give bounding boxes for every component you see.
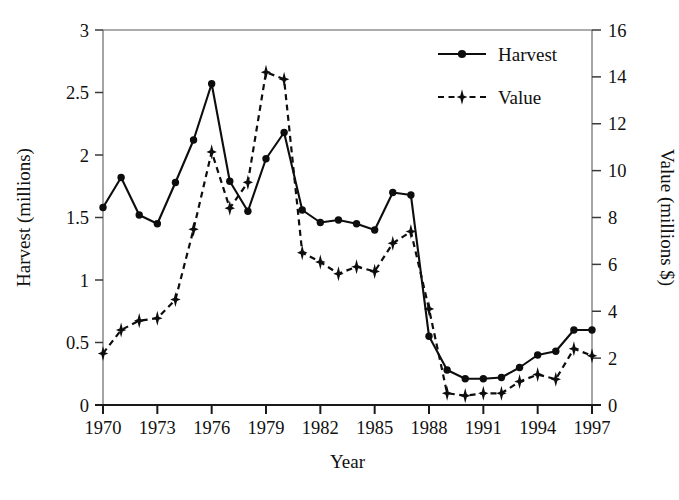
y-axis-tick-label: 3 [80,21,89,41]
data-point [154,220,161,227]
y-axis-tick-label: 1 [80,271,89,291]
data-point [460,388,470,403]
data-point [226,178,233,185]
series-line [103,72,592,395]
chart-figure: 00.511.522.53024681012141619701973197619… [0,0,679,500]
data-point [588,326,595,333]
data-point [299,206,306,213]
x-axis-tick-label: 1979 [248,418,285,438]
data-point [206,144,216,159]
data-point [351,259,361,274]
y-axis-tick-label: 2 [80,146,89,166]
y2-axis-tick-label: 8 [608,208,617,228]
data-series [98,65,597,404]
data-point [425,333,432,340]
data-point [261,65,271,80]
x-axis-tick-label: 1973 [139,418,176,438]
data-point [552,348,559,355]
x-axis-tick-label: 1982 [302,418,339,438]
data-point [442,386,452,401]
x-axis-tick-label: 1976 [193,418,230,438]
legend-item-value[interactable]: Value [438,87,541,108]
y2-axis-tick-label: 6 [608,255,617,275]
legend-label: Harvest [498,44,558,65]
legend-item-harvest[interactable]: Harvest [438,44,558,65]
y2-axis-tick-label: 14 [608,67,627,87]
y2-axis-title: Value (millions $) [656,149,678,286]
legend-marker-circle-icon [458,50,466,58]
data-point [353,220,360,227]
data-point [498,374,505,381]
series-line [103,84,592,379]
y2-axis-tick-label: 4 [608,302,617,322]
data-point [532,367,542,382]
data-point [534,351,541,358]
data-point [407,191,414,198]
chart-legend[interactable]: HarvestValue [438,44,558,108]
data-point [480,375,487,382]
data-point [587,348,597,363]
data-point [462,375,469,382]
data-point [478,386,488,401]
y2-axis-tick-label: 10 [608,161,627,181]
y-axis-title: Harvest (millions) [13,148,35,287]
data-point [315,254,325,269]
data-point [188,222,198,237]
x-axis-tick-label: 1994 [519,418,556,438]
data-point [244,208,251,215]
data-point [117,174,124,181]
data-point [280,129,287,136]
data-point [136,211,143,218]
x-axis-tick-label: 1991 [465,418,502,438]
data-point [516,364,523,371]
data-point [172,179,179,186]
data-point [371,226,378,233]
x-axis-tick-label: 1970 [85,418,122,438]
data-point [134,313,144,328]
x-axis-tick-label: 1988 [411,418,448,438]
data-point [496,386,506,401]
x-axis-tick-label: 1997 [574,418,611,438]
data-point [389,189,396,196]
data-point [317,219,324,226]
data-point [443,366,450,373]
data-point [190,136,197,143]
data-point [335,216,342,223]
y-axis-tick-label: 0 [80,396,89,416]
y2-axis-tick-label: 16 [608,21,627,41]
data-point [514,374,524,389]
chart-canvas: 00.511.522.53024681012141619701973197619… [0,0,679,500]
y2-axis-tick-label: 2 [608,349,617,369]
plot-area: 00.511.522.53024681012141619701973197619… [13,21,678,473]
data-point [333,266,343,281]
data-point [225,201,235,216]
y-axis-tick-label: 0.5 [66,333,89,353]
series-value [98,65,597,404]
data-point [208,80,215,87]
y2-axis-tick-label: 0 [608,396,617,416]
data-point [262,155,269,162]
y2-axis-tick-label: 12 [608,114,627,134]
legend-label: Value [498,87,541,108]
x-axis-title: Year [330,451,366,472]
data-point [99,204,106,211]
legend-marker-diamond-icon [457,89,468,105]
data-point [279,72,289,87]
series-harvest [99,80,595,382]
data-point [570,326,577,333]
x-axis-tick-label: 1985 [356,418,393,438]
y-axis-tick-label: 1.5 [66,208,89,228]
y-axis-tick-label: 2.5 [66,83,89,103]
data-point [297,245,307,260]
data-point [98,346,108,361]
